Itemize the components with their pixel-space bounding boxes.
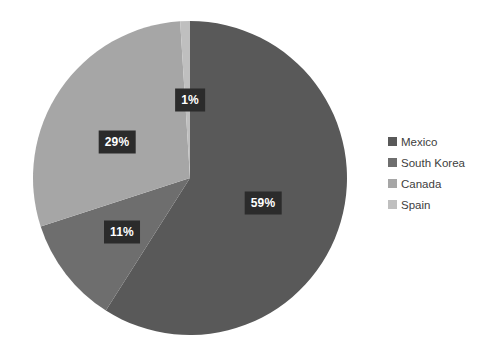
- legend-item-spain[interactable]: Spain: [388, 194, 480, 215]
- legend-item-south-korea[interactable]: South Korea: [388, 152, 480, 173]
- chart-legend: MexicoSouth KoreaCanadaSpain: [388, 131, 480, 215]
- legend-label: Mexico: [401, 136, 437, 148]
- legend-swatch-icon: [388, 158, 397, 167]
- legend-swatch-icon: [388, 137, 397, 146]
- legend-label: South Korea: [401, 157, 465, 169]
- data-label-south-korea: 11%: [104, 221, 140, 244]
- data-label-mexico: 59%: [245, 192, 282, 215]
- legend-swatch-icon: [388, 200, 397, 209]
- legend-label: Spain: [401, 199, 430, 211]
- legend-label: Canada: [401, 178, 441, 190]
- data-label-canada: 29%: [99, 131, 136, 154]
- legend-swatch-icon: [388, 179, 397, 188]
- data-label-spain: 1%: [175, 89, 205, 112]
- legend-item-mexico[interactable]: Mexico: [388, 131, 480, 152]
- legend-item-canada[interactable]: Canada: [388, 173, 480, 194]
- pie-chart: 1%29%59%11% MexicoSouth KoreaCanadaSpain: [0, 0, 482, 358]
